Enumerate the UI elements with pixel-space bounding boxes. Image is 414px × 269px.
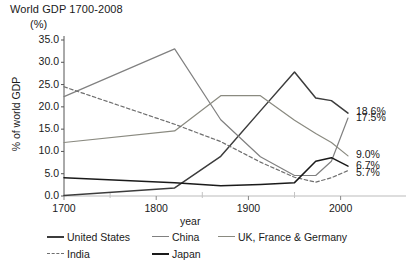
chart-legend: United StatesChinaUK, France & Germany I… — [0, 228, 414, 268]
legend-swatch-icon — [218, 236, 235, 238]
legend-item-china[interactable]: China — [152, 228, 199, 245]
legend-swatch-icon — [47, 236, 64, 238]
legend-item-label: United States — [67, 231, 130, 243]
legend-item-japan[interactable]: Japan — [152, 245, 201, 262]
legend-item-label: Japan — [172, 248, 201, 260]
legend-swatch-icon — [47, 253, 64, 254]
series-line-japan — [64, 158, 348, 186]
legend-row-1: United StatesChinaUK, France & Germany — [0, 228, 414, 245]
legend-item-label: UK, France & Germany — [238, 231, 347, 243]
legend-item-india[interactable]: India — [47, 245, 90, 262]
legend-swatch-icon — [152, 253, 169, 255]
legend-row-2: IndiaJapan — [0, 245, 414, 262]
series-line-india — [64, 87, 348, 182]
legend-item-label: China — [172, 231, 199, 243]
chart-container: World GDP 1700-2008 (%) % of world GDP y… — [0, 0, 414, 269]
series-line-uk-france-germany — [64, 96, 348, 156]
legend-item-united-states[interactable]: United States — [47, 228, 130, 245]
series-line-united-states — [64, 72, 348, 195]
legend-item-uk-france-germany[interactable]: UK, France & Germany — [218, 228, 347, 245]
series-line-china — [64, 49, 348, 176]
legend-swatch-icon — [152, 236, 169, 238]
legend-item-label: India — [67, 248, 90, 260]
